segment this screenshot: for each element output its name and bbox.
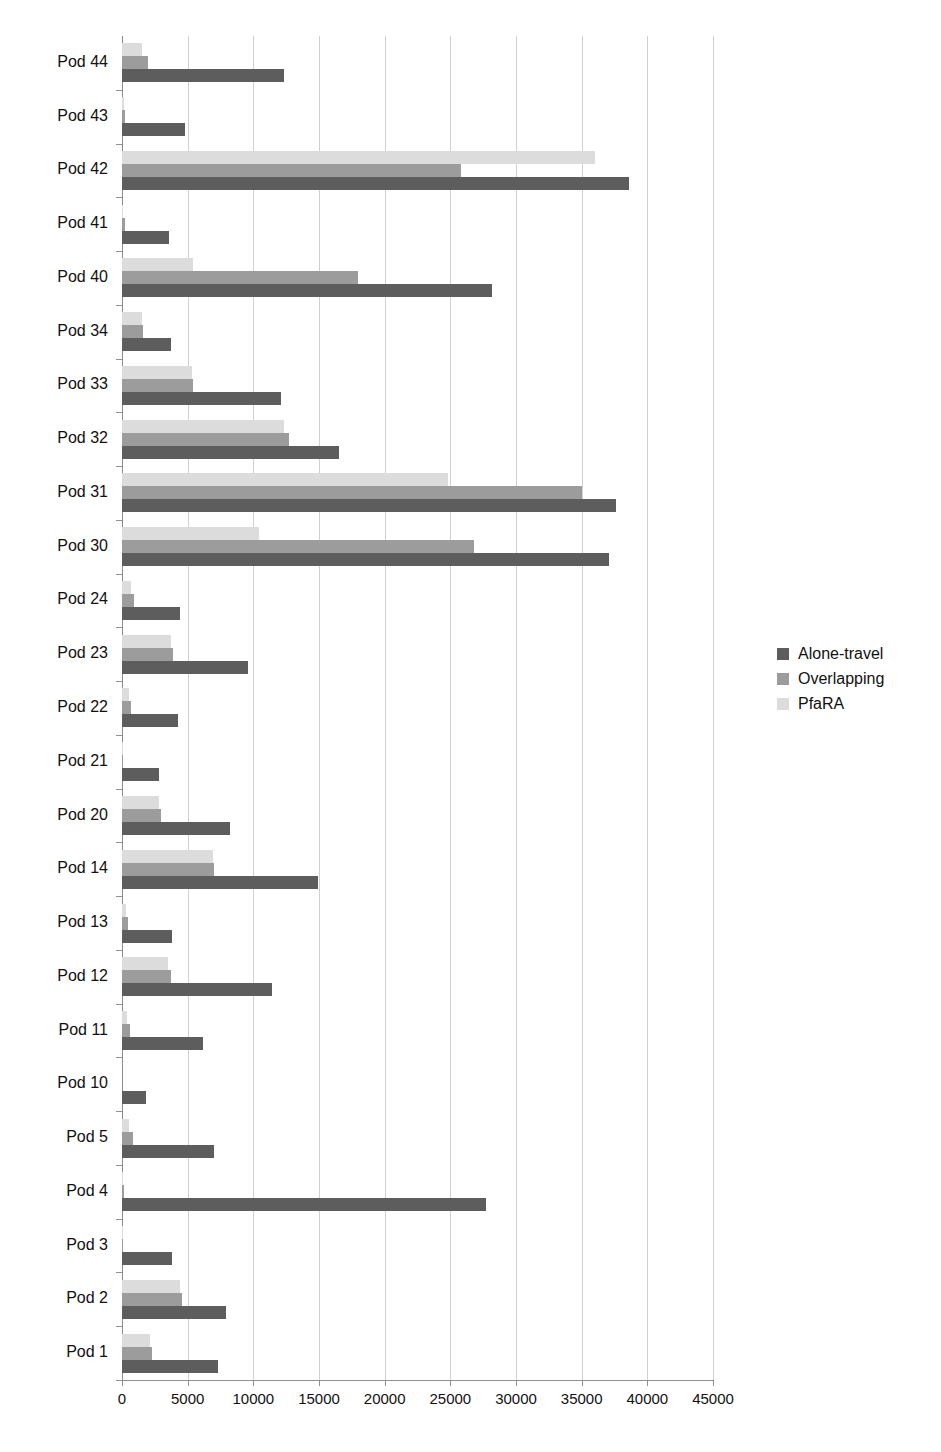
bar <box>122 1145 214 1158</box>
bar <box>122 527 259 540</box>
bar-group <box>122 412 713 466</box>
x-tickmark-15000 <box>319 1380 320 1386</box>
y-axis-label-pod-30: Pod 30 <box>57 537 108 555</box>
bar-group <box>122 789 713 843</box>
bar <box>122 379 193 392</box>
y-axis-label-pod-34: Pod 34 <box>57 322 108 340</box>
bar <box>122 164 461 177</box>
y-axis-label-pod-20: Pod 20 <box>57 806 108 824</box>
y-axis-label-pod-22: Pod 22 <box>57 698 108 716</box>
x-tickmark-0 <box>122 1380 123 1386</box>
bar <box>122 1185 124 1198</box>
legend-swatch-icon <box>777 648 789 660</box>
bar <box>122 1037 203 1050</box>
bar-group <box>122 90 713 144</box>
bar-group <box>122 1004 713 1058</box>
bar <box>122 1119 129 1132</box>
legend-item[interactable]: PfaRA <box>777 691 937 716</box>
bar-chart: 0500010000150002000025000300003500040000… <box>0 0 941 1452</box>
x-tick-label: 5000 <box>171 1390 204 1407</box>
legend-item[interactable]: Overlapping <box>777 666 937 691</box>
bar <box>122 205 123 218</box>
bar <box>122 688 129 701</box>
bar-group <box>122 1219 713 1273</box>
bar-group <box>122 1111 713 1165</box>
bar <box>122 714 178 727</box>
bar <box>122 231 169 244</box>
bar-group <box>122 520 713 574</box>
x-tickmark-30000 <box>516 1380 517 1386</box>
bar <box>122 473 448 486</box>
x-tick-label: 45000 <box>692 1390 734 1407</box>
y-axis-label-pod-24: Pod 24 <box>57 590 108 608</box>
bar <box>122 1091 146 1104</box>
y-axis-label-pod-41: Pod 41 <box>57 214 108 232</box>
bar <box>122 930 172 943</box>
y-axis-label-pod-4: Pod 4 <box>66 1182 108 1200</box>
bar-group <box>122 197 713 251</box>
bar-group <box>122 735 713 789</box>
y-axis-label-pod-42: Pod 42 <box>57 160 108 178</box>
bar <box>122 312 142 325</box>
bar <box>122 97 124 110</box>
bar <box>122 123 185 136</box>
legend-swatch-icon <box>777 673 789 685</box>
x-axis-line <box>122 1380 714 1381</box>
bar <box>122 850 213 863</box>
bar-group <box>122 251 713 305</box>
bar-group <box>122 305 713 359</box>
bar <box>122 607 180 620</box>
y-axis-label-pod-1: Pod 1 <box>66 1343 108 1361</box>
bar <box>122 1011 127 1024</box>
bar <box>122 56 148 69</box>
bar <box>122 177 629 190</box>
legend-label: Overlapping <box>798 670 884 688</box>
bar <box>122 284 492 297</box>
bar <box>122 218 125 231</box>
bar-group <box>122 950 713 1004</box>
bar <box>122 1334 150 1347</box>
x-tick-label: 40000 <box>626 1390 668 1407</box>
x-tick-label: 10000 <box>232 1390 274 1407</box>
bar <box>122 755 123 768</box>
gridline-45000 <box>713 36 714 1380</box>
bar <box>122 581 131 594</box>
bar <box>122 863 214 876</box>
bar <box>122 446 339 459</box>
bar <box>122 796 159 809</box>
bar-group <box>122 1272 713 1326</box>
bar <box>122 1024 130 1037</box>
bar <box>122 983 272 996</box>
bar <box>122 499 616 512</box>
bar-group <box>122 1165 713 1219</box>
bar <box>122 540 474 553</box>
bar <box>122 325 143 338</box>
y-tickmark <box>116 1380 122 1381</box>
y-axis-label-pod-40: Pod 40 <box>57 268 108 286</box>
x-tickmark-40000 <box>647 1380 648 1386</box>
bar <box>122 1239 123 1252</box>
bar <box>122 809 161 822</box>
bar <box>122 876 318 889</box>
bar <box>122 1280 180 1293</box>
bar-group <box>122 359 713 413</box>
legend-item[interactable]: Alone-travel <box>777 641 937 666</box>
bar <box>122 433 289 446</box>
y-axis-label-pod-12: Pod 12 <box>57 967 108 985</box>
bar-group <box>122 681 713 735</box>
bar <box>122 1252 172 1265</box>
y-axis-label-pod-44: Pod 44 <box>57 53 108 71</box>
bar-group <box>122 1326 713 1380</box>
x-tickmark-5000 <box>188 1380 189 1386</box>
y-axis-label-pod-10: Pod 10 <box>57 1074 108 1092</box>
x-tick-label: 20000 <box>364 1390 406 1407</box>
y-axis-label-pod-23: Pod 23 <box>57 644 108 662</box>
bar <box>122 904 126 917</box>
y-axis-label-pod-11: Pod 11 <box>58 1021 108 1039</box>
bar <box>122 1306 226 1319</box>
bar-group <box>122 896 713 950</box>
bar <box>122 1347 152 1360</box>
legend-label: Alone-travel <box>798 645 883 663</box>
y-axis-label-pod-13: Pod 13 <box>57 913 108 931</box>
bar <box>122 1198 486 1211</box>
